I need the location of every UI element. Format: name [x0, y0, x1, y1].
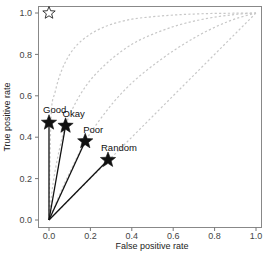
y-tick-label: 0.2: [19, 174, 32, 184]
y-tick-label: 0.4: [19, 132, 32, 142]
star-icon-okay: [58, 118, 73, 132]
x-axis-label: False positive rate: [115, 241, 188, 251]
x-tick-label: 0.4: [126, 231, 139, 241]
ideal-point-star-icon: [43, 7, 55, 19]
point-label-poor: Poor: [83, 124, 103, 135]
segment-poor: [49, 141, 85, 220]
point-labels: GoodOkayPoorRandom: [43, 104, 137, 153]
x-tick-label: 0.8: [208, 231, 221, 241]
y-tick-label: 1.0: [19, 8, 32, 18]
y-tick-label: 0.0: [19, 215, 32, 225]
x-tick-label: 0.0: [43, 231, 56, 241]
y-axis-ticks: 0.00.20.40.60.81.0: [19, 8, 38, 225]
x-tick-label: 1.0: [250, 231, 263, 241]
x-axis-ticks: 0.00.20.40.60.81.0: [43, 228, 263, 242]
roc-chart: 0.00.20.40.60.81.0 0.00.20.40.60.81.0 Go…: [0, 0, 271, 260]
star-icon-poor: [78, 133, 93, 147]
y-tick-label: 0.6: [19, 91, 32, 101]
point-label-okay: Okay: [63, 108, 85, 119]
x-tick-label: 0.6: [167, 231, 180, 241]
x-tick-label: 0.2: [84, 231, 97, 241]
origin-to-point-segments: [49, 123, 108, 220]
y-axis-label: True positive rate: [2, 82, 12, 151]
point-label-random: Random: [101, 142, 137, 153]
star-icon-random: [100, 152, 115, 166]
y-tick-label: 0.8: [19, 50, 32, 60]
